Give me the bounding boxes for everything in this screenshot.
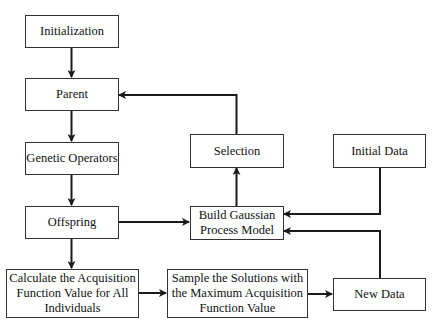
- node-offspring-label: Offspring: [48, 215, 96, 230]
- node-new-data-label: New Data: [354, 287, 404, 302]
- node-calculate-acquisition-label: Calculate the Acquisition Function Value…: [9, 271, 135, 316]
- node-calculate-acquisition: Calculate the Acquisition Function Value…: [6, 269, 139, 318]
- node-genetic-operators-label: Genetic Operators: [26, 151, 117, 166]
- node-selection: Selection: [190, 134, 284, 168]
- node-offspring: Offspring: [25, 206, 119, 239]
- node-initial-data: Initial Data: [333, 134, 426, 168]
- arrow-selection-to-parent: [119, 95, 237, 134]
- node-new-data: New Data: [333, 278, 426, 311]
- node-sample-solutions: Sample the Solutions with the Maximum Ac…: [167, 269, 308, 318]
- node-build-gaussian-process-label: Build Gaussian Process Model: [199, 208, 276, 238]
- node-initial-data-label: Initial Data: [351, 144, 408, 159]
- node-selection-label: Selection: [214, 144, 261, 159]
- node-parent-label: Parent: [56, 87, 88, 102]
- arrow-initialdata-to-build: [284, 167, 380, 214]
- node-sample-solutions-label: Sample the Solutions with the Maximum Ac…: [172, 271, 304, 316]
- node-initialization: Initialization: [25, 15, 119, 48]
- node-initialization-label: Initialization: [40, 24, 104, 39]
- node-genetic-operators: Genetic Operators: [25, 142, 119, 175]
- node-parent: Parent: [25, 78, 119, 111]
- node-build-gaussian-process: Build Gaussian Process Model: [190, 206, 284, 240]
- flowchart-canvas: Initialization Parent Genetic Operators …: [0, 0, 439, 331]
